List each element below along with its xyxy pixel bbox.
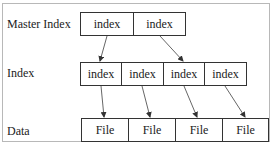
arrow-master1-to-index1 bbox=[100, 36, 107, 61]
arrow-index2-to-file2 bbox=[142, 86, 150, 117]
arrow-master2-to-index3 bbox=[160, 36, 183, 61]
arrow-index1-to-file1 bbox=[101, 86, 104, 117]
arrow-index4-to-file4 bbox=[225, 86, 245, 117]
arrows-layer bbox=[0, 0, 275, 151]
arrow-index3-to-file3 bbox=[184, 86, 197, 117]
